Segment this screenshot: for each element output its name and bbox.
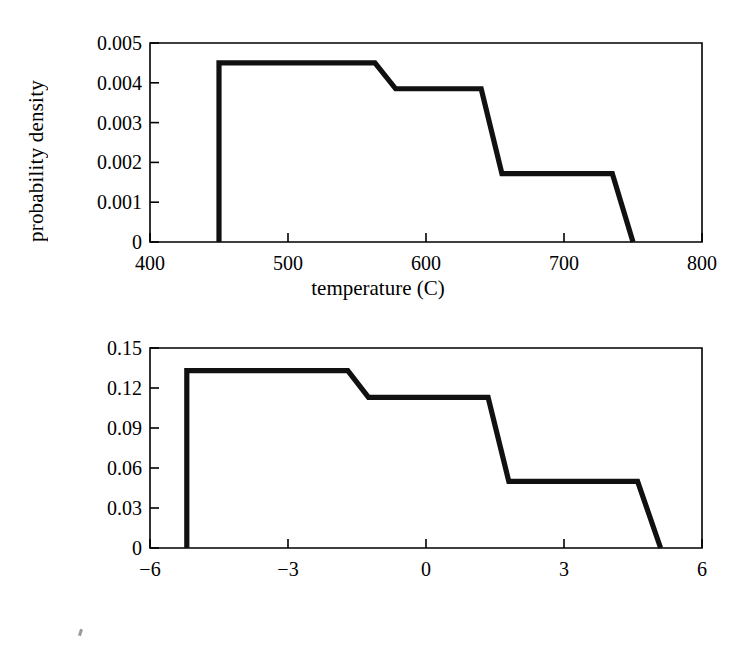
x-ticklabel-700: 700	[549, 252, 579, 274]
data-series-temperature	[219, 63, 633, 242]
x-ticklabel-6: 6	[697, 558, 707, 580]
y-ticklabel-0.004: 0.004	[97, 72, 142, 94]
y-ticklabel-0.06: 0.06	[107, 457, 142, 479]
x-ticklabel-3: 3	[559, 558, 569, 580]
axis-frame-wear	[150, 348, 702, 548]
figure-two-histogram-panels: probability density 0.005 0.004 0.003 0.…	[0, 0, 756, 653]
axis-frame-temperature	[150, 43, 702, 242]
plot-area-temperature: 0.005 0.004 0.003 0.002 0.001 0 400 500 …	[0, 0, 756, 320]
x-ticklabel-minus6: −6	[139, 558, 160, 580]
y-ticklabel-0.001: 0.001	[97, 191, 142, 213]
y-ticklabel-0.002: 0.002	[97, 151, 142, 173]
y-ticklabel-0.005: 0.005	[97, 32, 142, 54]
x-ticklabel-500: 500	[273, 252, 303, 274]
y-ticklabel-0.12: 0.12	[107, 377, 142, 399]
x-ticklabel-800: 800	[687, 252, 717, 274]
x-ticklabel-0: 0	[421, 558, 431, 580]
x-ticklabel-600: 600	[411, 252, 441, 274]
x-axis-label-temperature: temperature (C)	[0, 276, 756, 301]
y-ticklabel-0.03: 0.03	[107, 497, 142, 519]
panel-wear-deviation: 0.15 0.12 0.09 0.06 0.03 0 −6 −3 0 3 6 p…	[0, 320, 756, 653]
panel-temperature: probability density 0.005 0.004 0.003 0.…	[0, 0, 756, 320]
y-ticklabel-0.09: 0.09	[107, 417, 142, 439]
y-ticklabel-0.15: 0.15	[107, 337, 142, 359]
plot-area-wear-deviation: 0.15 0.12 0.09 0.06 0.03 0 −6 −3 0 3 6	[0, 320, 756, 653]
data-series-wear-deviation	[187, 371, 661, 548]
y-ticklabel-0: 0	[132, 231, 142, 253]
y-ticklabel-0-wear: 0	[132, 537, 142, 559]
x-ticklabel-minus3: −3	[277, 558, 298, 580]
y-ticklabel-0.003: 0.003	[97, 112, 142, 134]
x-ticklabel-400: 400	[135, 252, 165, 274]
